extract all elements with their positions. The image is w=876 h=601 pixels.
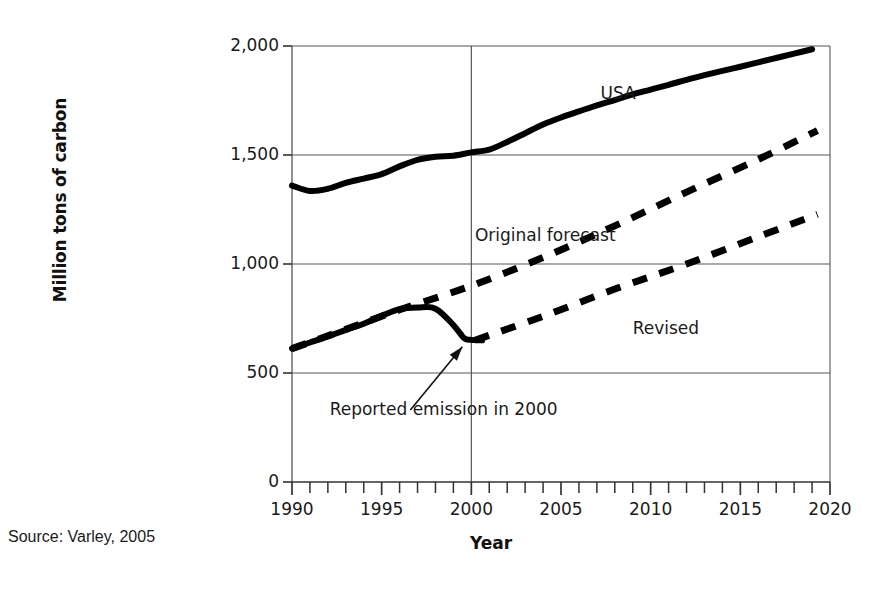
y-tick-label: 500 (209, 362, 279, 382)
x-tick-label: 1995 (342, 499, 422, 519)
y-tick-label: 2,000 (209, 35, 279, 55)
y-tick-label: 0 (209, 471, 279, 491)
y-axis-title: Million tons of carbon (50, 70, 70, 330)
source-note: Source: Varley, 2005 (8, 528, 155, 546)
x-tick-label: 2020 (790, 499, 870, 519)
axis-ticks (283, 46, 830, 495)
chart-figure: Million tons of carbon Year 05001,0001,5… (0, 0, 876, 601)
x-tick-label: 2010 (611, 499, 691, 519)
series-line (292, 307, 482, 349)
y-tick-label: 1,500 (209, 144, 279, 164)
series-label: USA (600, 83, 635, 103)
x-tick-label: 2000 (431, 499, 511, 519)
annotation-text: Reported emission in 2000 (330, 399, 558, 419)
x-tick-label: 1990 (252, 499, 332, 519)
series-label: Original forecast (475, 225, 616, 245)
x-tick-label: 2015 (700, 499, 780, 519)
y-tick-label: 1,000 (209, 253, 279, 273)
x-tick-label: 2005 (521, 499, 601, 519)
series-label: Revised (633, 318, 699, 338)
data-series (292, 49, 817, 348)
x-axis-title: Year (470, 533, 512, 553)
